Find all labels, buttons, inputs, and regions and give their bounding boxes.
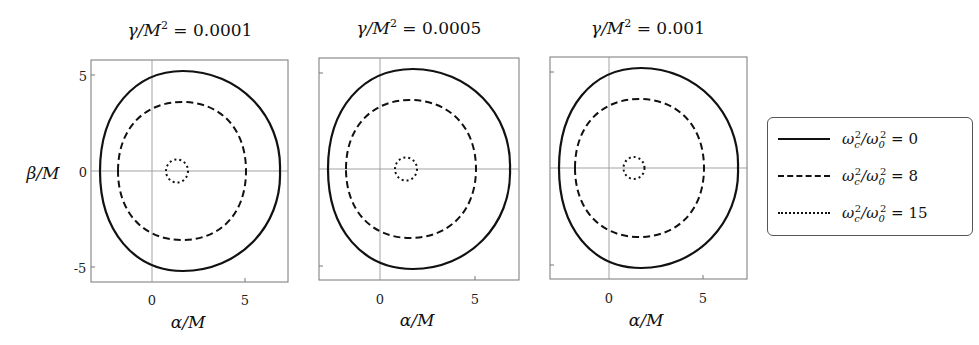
legend-value: 8 <box>908 167 918 185</box>
p1-x-axis-label: α/M <box>171 312 206 332</box>
p3-xtick-5: 5 <box>699 291 707 306</box>
legend-label: ωc2/ω02 = 15 <box>842 203 927 224</box>
legend: ωc2/ω02 = 0 ωc2/ω02 = 8 ωc2/ω02 = 15 <box>767 117 973 236</box>
legend-item-dotted: ωc2/ω02 = 15 <box>778 203 927 223</box>
p3-xtick-0: 0 <box>605 291 613 306</box>
ytick-5: 5 <box>79 69 87 84</box>
p2-xtick-0: 0 <box>376 292 384 307</box>
p1-xtick-0: 0 <box>148 293 156 308</box>
ytick-0: 0 <box>79 165 87 180</box>
legend-value: 0 <box>908 130 918 148</box>
panel-2-plot <box>319 58 519 280</box>
legend-value: 15 <box>908 204 927 222</box>
legend-item-dashed: ωc2/ω02 = 8 <box>778 166 918 186</box>
y-axis-label: β/M <box>27 163 60 183</box>
p2-x-axis-label: α/M <box>400 310 435 330</box>
legend-label: ωc2/ω02 = 0 <box>842 129 918 150</box>
solid-line-icon <box>778 138 830 140</box>
p1-xtick-5: 5 <box>241 293 249 308</box>
panel-3-plot <box>550 57 747 279</box>
legend-item-solid: ωc2/ω02 = 0 <box>778 129 918 149</box>
p2-xtick-5: 5 <box>471 292 479 307</box>
dotted-line-icon <box>778 212 830 214</box>
panel-1-plot <box>91 60 288 282</box>
ytick-neg5: -5 <box>74 261 87 276</box>
legend-label: ωc2/ω02 = 8 <box>842 166 918 187</box>
dashed-line-icon <box>778 175 830 177</box>
p3-x-axis-label: α/M <box>629 310 664 330</box>
